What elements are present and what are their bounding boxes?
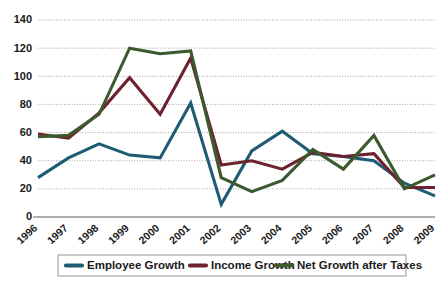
- x-tick-label: 2001: [167, 221, 193, 246]
- y-tick-label: 140: [14, 13, 32, 25]
- x-tick-label: 2009: [411, 221, 437, 246]
- x-tick-label: 2008: [380, 221, 406, 246]
- y-tick-label: 120: [14, 42, 32, 54]
- y-tick-label: 60: [20, 126, 32, 138]
- line-chart: 020406080100120140 199619971998199920002…: [0, 0, 441, 287]
- series-line: [38, 48, 435, 192]
- x-tick-label: 2004: [258, 221, 284, 246]
- x-tick-label: 1997: [44, 221, 70, 246]
- chart-legend: Employee GrowthIncome GrowthNet Growth a…: [58, 255, 422, 276]
- gridlines-group: [38, 20, 435, 217]
- x-tick-label: 2003: [228, 221, 254, 246]
- x-tick-label: 2005: [289, 221, 315, 246]
- x-tick-label: 2000: [136, 221, 162, 246]
- x-tick-label: 2006: [319, 221, 345, 246]
- data-series-group: [38, 48, 435, 204]
- y-tick-label: 40: [20, 154, 32, 166]
- y-tick-label: 0: [26, 210, 32, 222]
- x-tick-label: 2002: [197, 221, 223, 246]
- x-axis-tick-labels: 1996199719981999200020012002200320042005…: [14, 221, 437, 246]
- series-line: [38, 58, 435, 187]
- y-tick-label: 80: [20, 98, 32, 110]
- y-tick-label: 20: [20, 182, 32, 194]
- chart-canvas: 020406080100120140 199619971998199920002…: [0, 0, 441, 287]
- x-tick-label: 1998: [75, 221, 101, 246]
- legend-item-label: Employee Growth: [87, 259, 185, 271]
- y-tick-label: 100: [14, 70, 32, 82]
- legend-item-label: Net Growth after Taxes: [297, 259, 422, 271]
- x-tick-label: 1996: [14, 221, 40, 246]
- x-tick-label: 1999: [106, 221, 132, 246]
- x-tick-label: 2007: [350, 221, 376, 246]
- y-axis-tick-labels: 020406080100120140: [14, 13, 32, 222]
